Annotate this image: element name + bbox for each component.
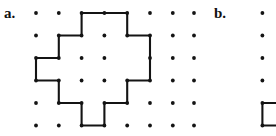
- panel-b-grid-dots: [192, 11, 264, 127]
- polygon-vertex-dot: [34, 56, 38, 60]
- polygon-vertex-dot: [125, 11, 129, 15]
- polygon-outline-b-partial: [262, 103, 276, 126]
- polygon-vertex-dot: [80, 124, 84, 128]
- polygon-vertex-dot: [57, 79, 61, 83]
- grid-dot: [192, 34, 196, 38]
- polygon-vertex-dot: [103, 34, 107, 38]
- polygon-vertex-dot: [125, 101, 129, 105]
- figure-canvas: a. b.: [0, 0, 276, 136]
- grid-dot: [192, 11, 196, 15]
- grid-dot: [192, 79, 196, 83]
- polygon-vertex-dot: [80, 79, 84, 83]
- polygon-vertex-dot: [103, 101, 107, 105]
- grid-dot: [57, 124, 61, 128]
- grid-dot: [261, 56, 265, 60]
- polygon-vertex-dot: [34, 79, 38, 83]
- polygon-vertex-dot: [148, 56, 152, 60]
- polygon-vertex-dot: [148, 79, 152, 83]
- grid-dot: [171, 11, 175, 15]
- polygon-vertex-dot: [80, 101, 84, 105]
- grid-dot: [171, 79, 175, 83]
- polygon-vertex-dot: [125, 34, 129, 38]
- grid-dot: [34, 11, 38, 15]
- polygon-vertex-dot: [148, 34, 152, 38]
- polygon-outline-a: [36, 13, 150, 126]
- polygon-vertex-dot: [103, 11, 107, 15]
- panel-b-partial-polygon: [262, 103, 276, 126]
- grid-dot: [261, 34, 265, 38]
- polygon-vertex-dot: [57, 56, 61, 60]
- grid-dot: [34, 101, 38, 105]
- grid-dot: [148, 124, 152, 128]
- polygon-vertex-dot: [261, 124, 265, 128]
- panel-a-polygon: [36, 13, 150, 126]
- polygon-vertex-dot: [103, 56, 107, 60]
- polygon-vertex-dot: [261, 101, 265, 105]
- grid-dot: [148, 101, 152, 105]
- grid-dot: [261, 11, 265, 15]
- grid-dot: [171, 34, 175, 38]
- grid-dot: [192, 124, 196, 128]
- grid-dot: [34, 34, 38, 38]
- polygon-vertex-dot: [80, 56, 84, 60]
- grid-dot: [148, 11, 152, 15]
- grid-dot: [192, 56, 196, 60]
- polygon-vertex-dot: [80, 34, 84, 38]
- polygon-vertex-dot: [80, 11, 84, 15]
- polygon-vertex-dot: [125, 79, 129, 83]
- grid-dot: [171, 56, 175, 60]
- polygon-vertex-dot: [103, 124, 107, 128]
- polygon-vertex-dot: [103, 79, 107, 83]
- dot-grid-figure: [0, 0, 276, 136]
- polygon-vertex-dot: [57, 34, 61, 38]
- grid-dot: [34, 124, 38, 128]
- grid-dot: [171, 101, 175, 105]
- grid-dot: [57, 11, 61, 15]
- grid-dot: [192, 101, 196, 105]
- grid-dot: [261, 79, 265, 83]
- panel-a-vertex-dots: [34, 11, 152, 127]
- grid-dot: [125, 124, 129, 128]
- polygon-vertex-dot: [57, 101, 61, 105]
- grid-dot: [171, 124, 175, 128]
